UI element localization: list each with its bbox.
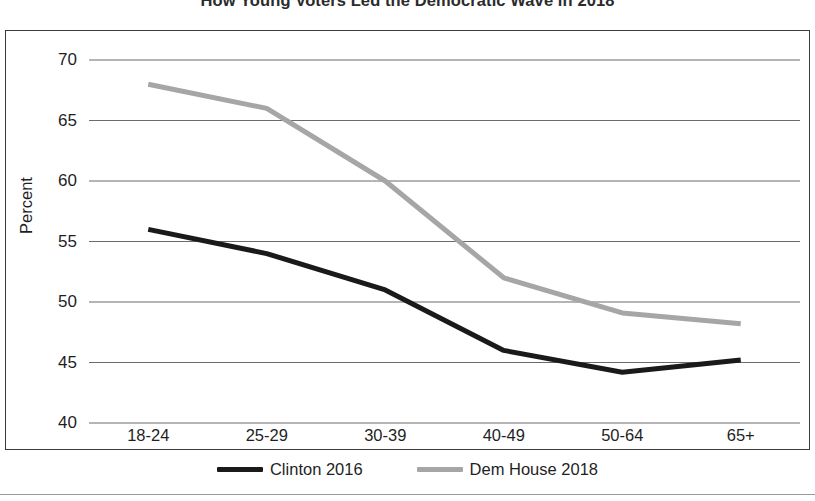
chart-container: How Young Voters Led the Democratic Wave… (0, 0, 815, 501)
chart-title: How Young Voters Led the Democratic Wave… (0, 0, 815, 10)
legend-line-swatch (417, 467, 463, 472)
legend-line-swatch (217, 467, 263, 472)
series-line-clinton-2016 (148, 229, 741, 372)
legend-item[interactable]: Dem House 2018 (417, 460, 598, 479)
plot-area (5, 30, 810, 450)
chart-legend: Clinton 2016Dem House 2018 (0, 460, 815, 479)
legend-item[interactable]: Clinton 2016 (217, 460, 363, 479)
bottom-divider (0, 494, 815, 495)
legend-label: Dem House 2018 (470, 460, 598, 479)
legend-label: Clinton 2016 (270, 460, 363, 479)
